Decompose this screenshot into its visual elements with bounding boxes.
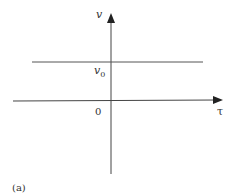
level-label-sub: 0 — [100, 70, 105, 79]
figure-caption: (a) — [12, 182, 26, 193]
vertical-axis-label: v — [96, 8, 103, 21]
vertical-axis-arrow-icon — [107, 13, 115, 23]
horizontal-axis-label: τ — [217, 105, 223, 118]
horizontal-axis-arrow-icon — [213, 96, 223, 104]
horizontal-axis — [13, 100, 216, 101]
level-label: v0 — [94, 64, 105, 79]
diagram-canvas: v τ 0 v0 (a) — [0, 0, 235, 196]
origin-label: 0 — [95, 106, 101, 117]
